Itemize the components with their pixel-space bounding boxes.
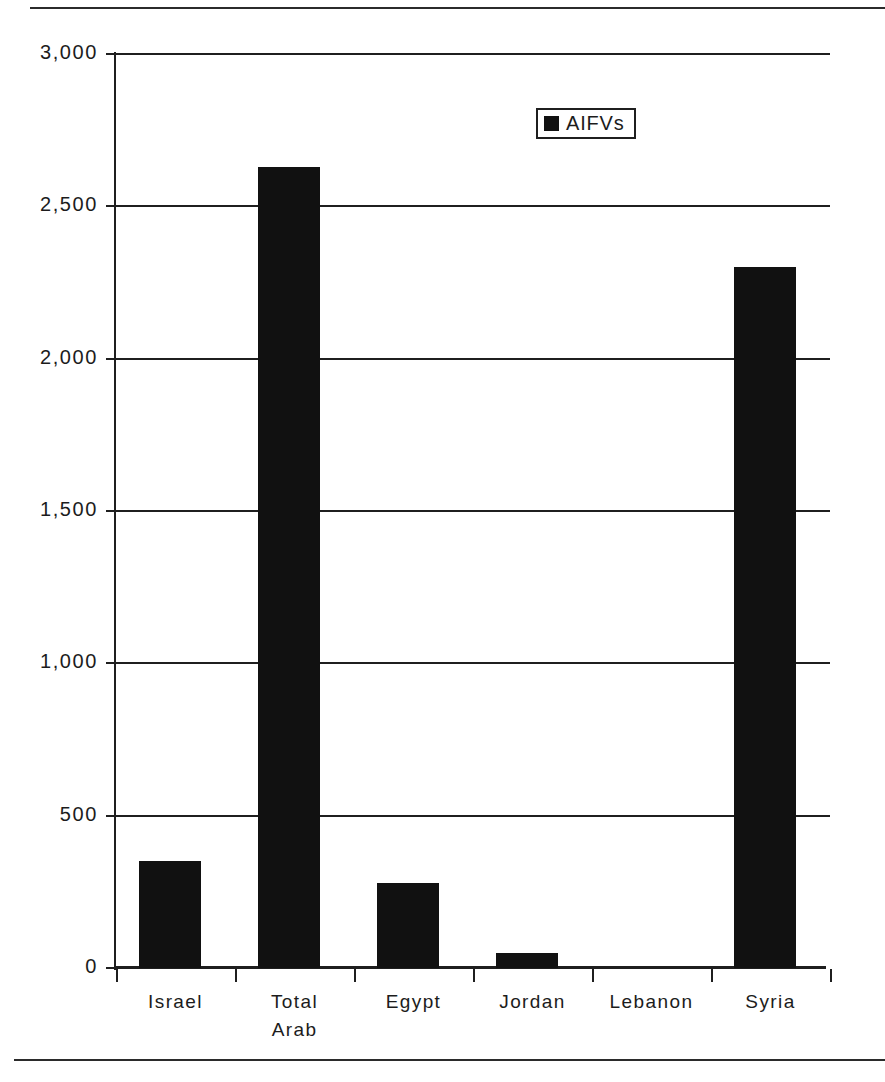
- y-axis-tick-label: 0: [0, 955, 98, 978]
- bar: [734, 267, 796, 968]
- legend-label-aifvs: AIFVs: [566, 113, 624, 133]
- x-axis-tick: [830, 969, 832, 982]
- bar: [377, 883, 439, 968]
- bar: [496, 953, 558, 968]
- y-axis-tick-label: 500: [0, 803, 98, 826]
- bar-series-aifvs: [116, 54, 830, 968]
- chart-legend: AIFVs: [536, 108, 636, 139]
- x-axis-tick: [473, 969, 475, 982]
- x-axis-tick: [116, 969, 118, 982]
- x-axis-tick: [592, 969, 594, 982]
- x-axis-tick: [354, 969, 356, 982]
- legend-swatch-aifvs: [544, 116, 559, 131]
- y-axis-tick-label: 3,000: [0, 41, 98, 64]
- bar-chart: 05001,0001,5002,0002,5003,000 IsraelTota…: [0, 0, 885, 1082]
- y-axis-tick-label: 2,000: [0, 346, 98, 369]
- y-axis-tick-label: 2,500: [0, 193, 98, 216]
- x-axis-tick: [235, 969, 237, 982]
- y-axis-tick-label: 1,000: [0, 650, 98, 673]
- x-axis-tick: [711, 969, 713, 982]
- bar: [258, 167, 320, 968]
- x-axis-tick-label: Syria: [691, 988, 850, 1016]
- bar: [139, 861, 201, 968]
- y-axis-tick-label: 1,500: [0, 498, 98, 521]
